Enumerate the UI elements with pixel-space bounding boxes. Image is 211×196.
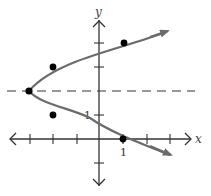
point-1-0 xyxy=(120,136,127,143)
point-neg2-1 xyxy=(50,112,57,119)
x-axis: x 1 xyxy=(10,132,202,159)
point-neg2-3 xyxy=(50,64,57,71)
vertex-point xyxy=(25,87,32,94)
x-tick-label-1: 1 xyxy=(120,146,127,159)
x-axis-label: x xyxy=(195,132,202,146)
curve-upper-arrow-icon xyxy=(150,31,168,37)
y-axis: y 1 xyxy=(84,5,105,186)
curve-lower-arrow-icon xyxy=(150,146,171,155)
parabola-graph: x 1 y 1 xyxy=(0,0,211,196)
y-axis-label: y xyxy=(94,5,102,19)
point-1-4 xyxy=(121,40,128,47)
